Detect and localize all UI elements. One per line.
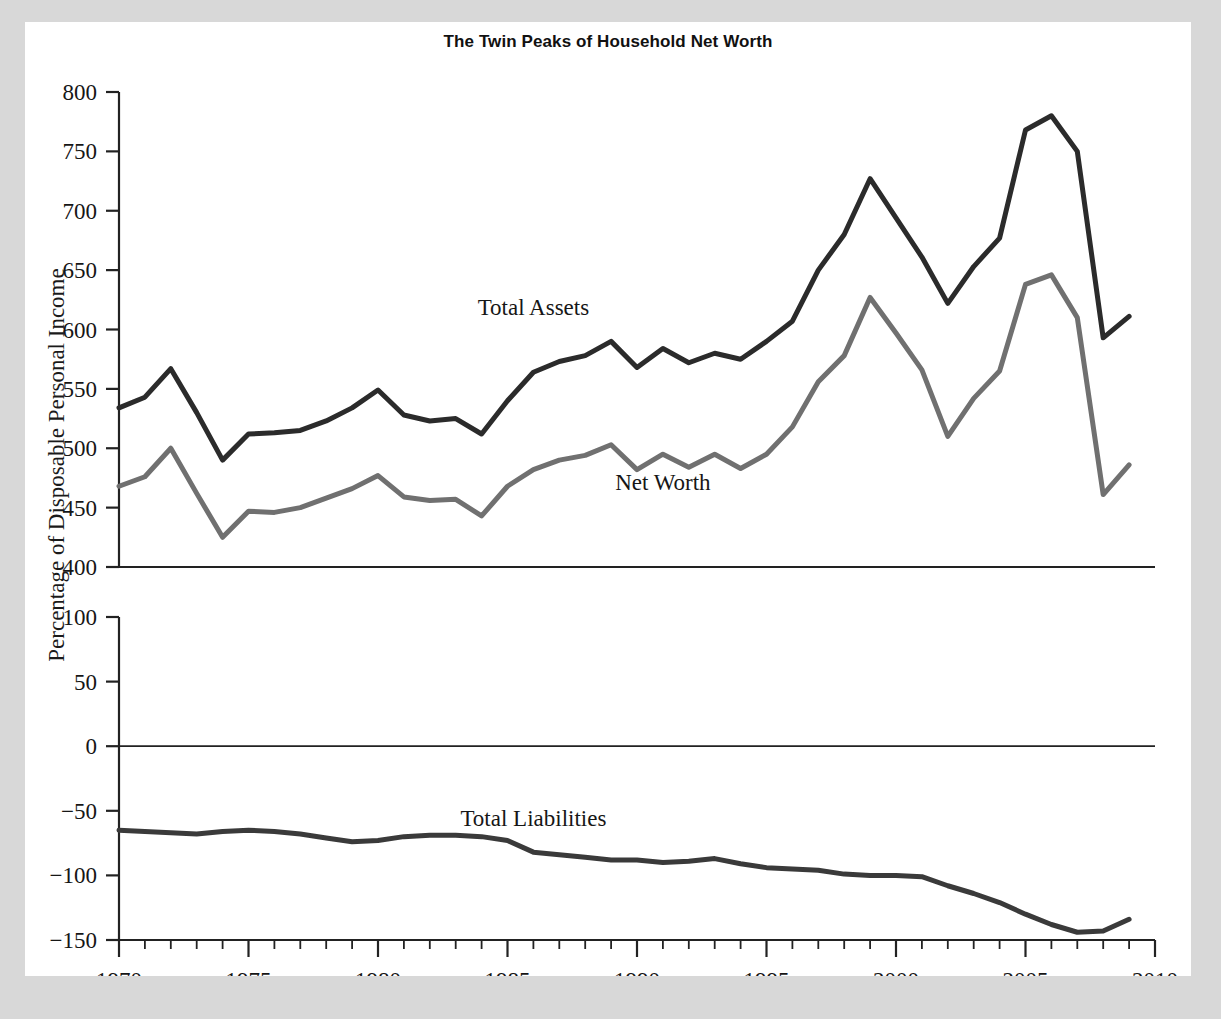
- y-tick-label: 600: [63, 318, 98, 343]
- series-line-total-assets: [119, 116, 1129, 460]
- x-tick-label: 2000: [873, 968, 919, 976]
- x-tick-label: 1995: [744, 968, 790, 976]
- series-label-total-assets: Total Assets: [478, 295, 590, 320]
- y-tick-label: 700: [63, 199, 98, 224]
- upper-panel: 400450500550600650700750800Total AssetsN…: [63, 80, 1156, 580]
- x-tick-label: 1990: [614, 968, 660, 976]
- lower-panel: −150−100−50050100Total Liabilities: [50, 605, 1155, 953]
- y-tick-label: 50: [74, 670, 97, 695]
- y-tick-label: 450: [63, 496, 98, 521]
- series-label-total-liabilities: Total Liabilities: [460, 806, 606, 831]
- y-tick-label: 750: [63, 139, 98, 164]
- y-tick-label: 800: [63, 80, 98, 105]
- series-label-net-worth: Net Worth: [615, 470, 711, 495]
- y-tick-label: 400: [63, 555, 98, 580]
- page-sheet: The Twin Peaks of Household Net Worth Pe…: [25, 22, 1191, 976]
- x-tick-label: 1975: [226, 968, 272, 976]
- y-tick-label: 100: [63, 605, 98, 630]
- x-tick-label: 2010: [1132, 968, 1178, 976]
- y-tick-label: 0: [86, 734, 98, 759]
- x-axis: 197019751980198519901995200020052010: [96, 940, 1178, 976]
- y-tick-label: −100: [50, 863, 97, 888]
- y-tick-label: −150: [50, 928, 97, 953]
- x-tick-label: 1985: [485, 968, 531, 976]
- x-tick-label: 1970: [96, 968, 142, 976]
- figure-container: The Twin Peaks of Household Net Worth Pe…: [25, 22, 1191, 976]
- y-tick-label: −50: [61, 799, 97, 824]
- series-line-total-liabilities: [119, 830, 1129, 932]
- y-tick-label: 500: [63, 436, 98, 461]
- series-line-net-worth: [119, 275, 1129, 537]
- x-tick-label: 1980: [355, 968, 401, 976]
- x-tick-label: 2005: [1003, 968, 1049, 976]
- y-tick-label: 650: [63, 258, 98, 283]
- chart-canvas: 400450500550600650700750800Total AssetsN…: [25, 22, 1191, 976]
- y-tick-label: 550: [63, 377, 98, 402]
